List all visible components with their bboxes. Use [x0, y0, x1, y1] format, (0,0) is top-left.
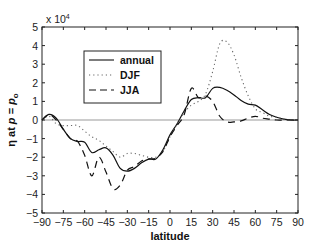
- x-tick-label: 90: [292, 216, 304, 228]
- plot-area: −90−75−60−45−30−150153045607590−5−4−3−2−…: [26, 21, 304, 228]
- y-tick-label: 2: [32, 77, 38, 89]
- x-tick-label: 60: [249, 216, 261, 228]
- y-tick-label: −3: [26, 170, 38, 182]
- x-tick-label: −15: [140, 216, 158, 228]
- legend-label-annual: annual: [120, 54, 154, 66]
- x-tick-label: −45: [97, 216, 115, 228]
- y-tick-label: 4: [32, 40, 38, 52]
- y-tick-label: 3: [32, 58, 38, 70]
- x-tick-label: 0: [167, 216, 173, 228]
- y-tick-label: 0: [32, 114, 38, 126]
- legend-label-djf: DJF: [120, 69, 140, 81]
- x-tick-label: 45: [228, 216, 240, 228]
- y-tick-label: 5: [32, 21, 38, 33]
- legend-label-jja: JJA: [120, 84, 140, 96]
- y-multiplier: x 104: [46, 13, 70, 25]
- y-tick-label: −4: [26, 188, 38, 200]
- x-tick-label: 15: [185, 216, 197, 228]
- legend: annual DJF JJA: [84, 51, 161, 103]
- x-tick-label: 30: [207, 216, 219, 228]
- chart: −90−75−60−45−30−150153045607590−5−4−3−2−…: [0, 0, 314, 247]
- y-tick-label: 1: [32, 95, 38, 107]
- x-tick-label: −30: [118, 216, 136, 228]
- x-tick-label: 75: [271, 216, 283, 228]
- x-axis-label: latitude: [150, 230, 189, 242]
- y-tick-label: −2: [26, 151, 38, 163]
- y-tick-label: −1: [26, 133, 38, 145]
- x-tick-label: −60: [76, 216, 94, 228]
- y-axis-label: η at p = po: [5, 93, 20, 147]
- x-tick-label: −75: [54, 216, 72, 228]
- y-tick-label: −5: [26, 207, 38, 219]
